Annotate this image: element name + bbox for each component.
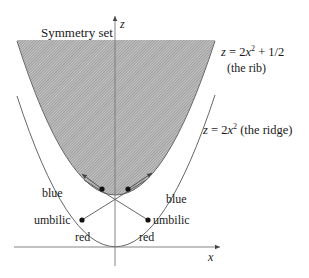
symmetry-set-diagram: Symmetry set z x z = 2x2 + 1/2 (the rib)… xyxy=(0,0,309,278)
left-umbilic-label: umbilic xyxy=(34,213,71,227)
rib-equation: z = 2x2 + 1/2 xyxy=(220,44,284,59)
rib-right-dot xyxy=(125,186,130,191)
right-blue-label: blue xyxy=(166,192,187,206)
right-umbilic-label: umbilic xyxy=(153,213,190,227)
symmetry-set-label: Symmetry set xyxy=(41,25,113,40)
left-blue-label: blue xyxy=(42,186,63,200)
left-red-label: red xyxy=(75,230,90,244)
right-red-label: red xyxy=(139,230,154,244)
ridge-equation: z = 2x2 (the ridge) xyxy=(202,122,293,137)
left-umbilic-dot xyxy=(79,217,84,222)
rib-left-dot xyxy=(99,186,104,191)
right-umbilic-dot xyxy=(145,217,150,222)
z-axis-label: z xyxy=(119,17,125,31)
x-axis-label: x xyxy=(207,250,214,264)
rib-caption: (the rib) xyxy=(227,61,266,75)
